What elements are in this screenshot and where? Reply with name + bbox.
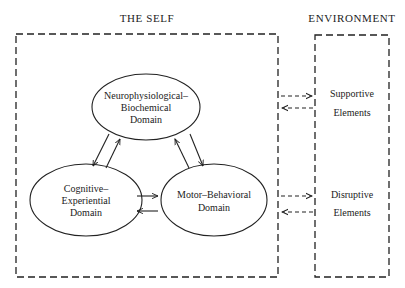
svg-text:Biochemical: Biochemical (121, 102, 172, 113)
arrow-neuro-to-cognitive (93, 134, 109, 166)
svg-text:Domain: Domain (130, 114, 162, 125)
svg-text:Elements: Elements (333, 207, 370, 218)
svg-text:Domain: Domain (198, 202, 230, 213)
svg-text:Elements: Elements (333, 107, 370, 118)
svg-text:Disruptive: Disruptive (331, 189, 374, 200)
arrow-cognitive-to-neuro (106, 139, 120, 168)
node-cognitive-experiential: Cognitive– Experiential Domain (30, 164, 142, 236)
env-supportive-elements: Supportive Elements (330, 88, 374, 118)
svg-text:Cognitive–: Cognitive– (64, 183, 109, 194)
self-environment-diagram: THE SELF ENVIRONMENT Neurophysiological–… (0, 0, 405, 288)
environment-section-title: ENVIRONMENT (308, 12, 395, 24)
svg-text:Domain: Domain (70, 207, 102, 218)
svg-text:Supportive: Supportive (330, 88, 374, 99)
node-neurophysiological-biochemical: Neurophysiological– Biochemical Domain (92, 74, 200, 140)
arrow-motor-to-neuro (175, 139, 189, 168)
svg-text:Motor–Behavioral: Motor–Behavioral (177, 189, 251, 200)
arrow-neuro-to-motor (190, 134, 203, 166)
self-section-title: THE SELF (120, 12, 175, 24)
node-motor-behavioral: Motor–Behavioral Domain (161, 164, 267, 236)
self-boundary (16, 34, 278, 277)
env-disruptive-elements: Disruptive Elements (331, 189, 374, 218)
svg-text:Neurophysiological–: Neurophysiological– (104, 90, 189, 101)
svg-text:Experiential: Experiential (62, 195, 111, 206)
environment-boundary (315, 35, 389, 277)
